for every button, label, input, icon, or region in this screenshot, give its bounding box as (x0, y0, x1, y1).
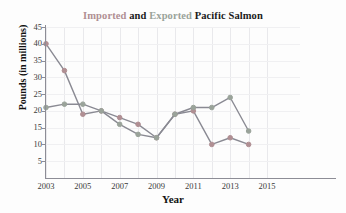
gridline-vertical (230, 27, 231, 178)
x-tick-label: 2015 (259, 181, 276, 191)
x-axis-title: Year (0, 193, 346, 205)
gridline-horizontal (46, 27, 300, 28)
title-part-and: and (129, 10, 146, 21)
gridline-vertical (267, 27, 268, 178)
gridline-vertical (157, 27, 158, 178)
gridline-vertical (175, 27, 176, 178)
gridline-horizontal (46, 128, 300, 129)
x-axis-line (45, 178, 336, 179)
gridline-horizontal (46, 94, 300, 95)
plot-area (46, 27, 300, 178)
gridline-horizontal (46, 144, 300, 145)
x-tick-label: 2011 (185, 181, 202, 191)
gridline-vertical (212, 27, 213, 178)
gridline-vertical (249, 27, 250, 178)
y-tick-mark (42, 27, 45, 28)
title-part-exported: Exported (149, 10, 192, 21)
gridline-horizontal (46, 161, 300, 162)
gridlines (46, 27, 300, 178)
gridline-vertical (138, 27, 139, 178)
title-part-subject: Pacific Salmon (195, 10, 263, 21)
y-tick-mark (42, 144, 45, 145)
y-tick-mark (42, 61, 45, 62)
gridline-horizontal (46, 44, 300, 45)
y-tick-mark (42, 128, 45, 129)
gridline-horizontal (46, 61, 300, 62)
chart-figure: Imported and Exported Pacific Salmon 510… (0, 0, 346, 213)
y-tick-mark (42, 94, 45, 95)
x-tick-label: 2005 (74, 181, 91, 191)
gridline-horizontal (46, 111, 300, 112)
y-tick-mark (42, 44, 45, 45)
y-axis-line (45, 25, 46, 179)
gridline-horizontal (46, 77, 300, 78)
title-part-imported: Imported (83, 10, 126, 21)
y-tick-mark (42, 77, 45, 78)
y-axis-title: Pounds (in millions) (17, 8, 28, 128)
x-tick-label: 2009 (148, 181, 165, 191)
y-tick-mark (42, 111, 45, 112)
x-tick-label: 2007 (111, 181, 128, 191)
gridline-vertical (64, 27, 65, 178)
gridline-vertical (83, 27, 84, 178)
gridline-vertical (193, 27, 194, 178)
gridline-vertical (120, 27, 121, 178)
y-tick-label: 10 (4, 140, 42, 149)
y-tick-label: 5 (4, 157, 42, 166)
gridline-vertical (101, 27, 102, 178)
x-tick-label: 2003 (38, 181, 55, 191)
chart-title: Imported and Exported Pacific Salmon (0, 9, 346, 22)
x-tick-label: 2013 (222, 181, 239, 191)
y-tick-mark (42, 161, 45, 162)
